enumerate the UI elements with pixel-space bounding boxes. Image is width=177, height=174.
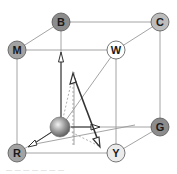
node-y-label: Y xyxy=(112,147,120,159)
node-r: R xyxy=(8,144,26,162)
arrow-double-head-bottom xyxy=(93,137,100,147)
arrow-double-shaft xyxy=(74,77,99,143)
node-m-label: M xyxy=(12,44,21,56)
node-w: W xyxy=(107,41,125,59)
node-c: C xyxy=(151,13,169,31)
node-y: Y xyxy=(107,144,125,162)
node-b-label: B xyxy=(57,16,65,28)
node-m: M xyxy=(8,41,26,59)
node-r-label: R xyxy=(13,147,21,159)
node-g-label: G xyxy=(156,121,165,133)
node-c-label: C xyxy=(156,16,164,28)
origin-sphere xyxy=(50,117,70,137)
helper-line-1 xyxy=(30,125,135,145)
node-g: G xyxy=(151,118,169,136)
color-cube-diagram: B C M W G R Y xyxy=(0,0,177,174)
node-w-label: W xyxy=(111,44,122,56)
arrow-to-r-head xyxy=(28,140,37,147)
cube-edges xyxy=(17,22,160,153)
arrow-to-b-head xyxy=(59,52,64,62)
cropped-caption: — — — — — — — xyxy=(6,167,65,173)
arrow-double-head-top xyxy=(70,73,76,84)
node-b: B xyxy=(52,13,70,31)
